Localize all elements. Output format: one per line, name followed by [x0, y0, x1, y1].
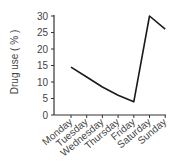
- y-tick-label: 10: [37, 77, 49, 88]
- x-axis: MondayTuesdayWednesdayThursdayFridaySatu…: [40, 115, 169, 158]
- y-axis-title: Drug use ( % ): [9, 30, 20, 94]
- y-tick-label: 15: [37, 60, 49, 71]
- line-chart: 051015202530 MondayTuesdayWednesdayThurs…: [0, 0, 177, 168]
- series-drug-use: [71, 16, 165, 102]
- y-tick-label: 20: [37, 44, 49, 55]
- y-axis: 051015202530: [37, 11, 54, 121]
- y-tick-label: 5: [42, 93, 48, 104]
- data-line: [71, 16, 165, 102]
- y-tick-label: 25: [37, 27, 49, 38]
- y-tick-label: 30: [37, 11, 49, 22]
- y-tick-label: 0: [42, 110, 48, 121]
